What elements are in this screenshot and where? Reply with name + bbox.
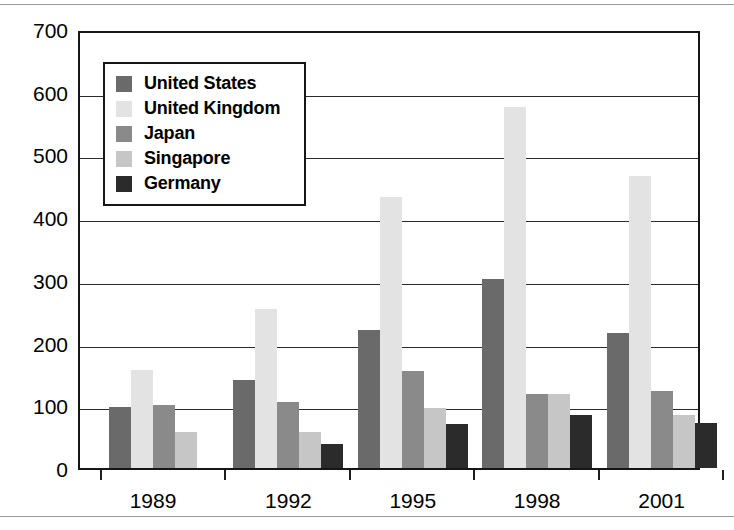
bar: [109, 407, 131, 468]
x-axis-tick: [349, 470, 351, 480]
x-axis-label: 2001: [638, 490, 685, 511]
x-axis-tick: [722, 470, 724, 480]
page-canvas: 0100200300400500600700 19891992199519982…: [0, 0, 734, 530]
legend-item: Singapore: [116, 146, 304, 171]
y-axis-tick-label: 400: [0, 208, 68, 229]
bar: [131, 370, 153, 468]
legend-item: Germany: [116, 171, 304, 196]
bar-group: [607, 33, 717, 468]
bar: [402, 371, 424, 468]
bar: [629, 176, 651, 468]
y-axis-tick-label: 100: [0, 396, 68, 417]
bar: [358, 330, 380, 468]
legend-swatch-icon: [116, 151, 132, 167]
x-axis-tick: [598, 470, 600, 480]
bar: [548, 394, 570, 468]
x-axis-label: 1998: [514, 490, 561, 511]
bar-group: [358, 33, 468, 468]
x-axis-label: 1992: [265, 490, 312, 511]
legend-item-label: Singapore: [144, 148, 230, 169]
x-axis-tick: [224, 470, 226, 480]
bar: [446, 424, 468, 468]
bar: [321, 444, 343, 468]
bar: [424, 408, 446, 468]
x-axis-label: 1989: [130, 490, 177, 511]
legend-item-label: United Kingdom: [144, 98, 280, 119]
x-axis-label: 1995: [389, 490, 436, 511]
legend-swatch-icon: [116, 176, 132, 192]
bar: [255, 309, 277, 468]
x-axis-tick: [100, 470, 102, 480]
chart-legend: United StatesUnited KingdomJapanSingapor…: [103, 62, 306, 206]
y-axis-tick-label: 200: [0, 334, 68, 355]
legend-item: United States: [116, 71, 304, 96]
bar: [695, 423, 717, 468]
legend-swatch-icon: [116, 76, 132, 92]
legend-item-label: United States: [144, 73, 256, 94]
bar-chart: 0100200300400500600700 19891992199519982…: [0, 0, 734, 530]
y-axis-tick-label: 0: [0, 459, 68, 480]
legend-swatch-icon: [116, 126, 132, 142]
y-axis-tick-label: 700: [0, 20, 68, 41]
bar-group: [482, 33, 592, 468]
bar: [673, 415, 695, 468]
y-axis-tick-label: 300: [0, 271, 68, 292]
bar: [175, 432, 197, 468]
bar: [482, 279, 504, 468]
bar: [380, 197, 402, 468]
legend-item: Japan: [116, 121, 304, 146]
bar: [607, 333, 629, 468]
bar: [299, 432, 321, 468]
bar: [504, 107, 526, 468]
y-axis-tick-label: 600: [0, 83, 68, 104]
bar: [277, 402, 299, 468]
x-axis-tick: [473, 470, 475, 480]
bar: [526, 394, 548, 468]
y-axis-tick-label: 500: [0, 145, 68, 166]
legend-item: United Kingdom: [116, 96, 304, 121]
legend-item-label: Japan: [144, 123, 195, 144]
bar: [233, 380, 255, 468]
legend-swatch-icon: [116, 101, 132, 117]
bar: [570, 415, 592, 468]
legend-item-label: Germany: [144, 173, 221, 194]
bar: [153, 405, 175, 468]
bar: [651, 391, 673, 468]
